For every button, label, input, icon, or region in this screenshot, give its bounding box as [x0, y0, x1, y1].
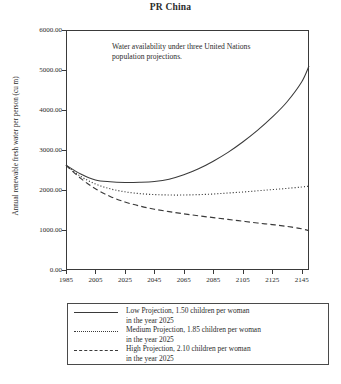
- legend-label: Low Projection, 1.50 children per womani…: [126, 306, 249, 326]
- series-line: [66, 165, 309, 195]
- chart-annotation: Water availability under three United Na…: [112, 42, 262, 63]
- legend-label: High Projection, 2.10 children per woman…: [126, 344, 251, 364]
- x-axis-tick-mark: [95, 270, 96, 274]
- legend-line-sample: [74, 331, 118, 333]
- legend-label: Medium Projection, 1.85 children per wom…: [126, 325, 261, 345]
- x-axis-tick-mark: [272, 270, 273, 274]
- y-axis-tick-label: 5000.00: [39, 66, 62, 74]
- chart-figure: PR China Annual renewable fresh water pe…: [0, 0, 341, 384]
- legend-item[interactable]: High Projection, 2.10 children per woman…: [68, 345, 328, 365]
- x-axis-tick-label: 2125: [265, 276, 279, 284]
- legend-line-sample: [74, 312, 118, 314]
- x-axis-tick-label: 2005: [88, 276, 102, 284]
- x-axis-tick-mark: [66, 270, 67, 274]
- y-axis-tick-label: 2000.00: [39, 186, 62, 194]
- x-axis-tick-mark: [125, 270, 126, 274]
- legend-label-line2: in the year 2025: [126, 354, 251, 364]
- legend-label-line1: Medium Projection, 1.85 children per wom…: [126, 325, 261, 335]
- x-axis-tick-label: 2045: [147, 276, 161, 284]
- legend-label-line1: Low Projection, 1.50 children per woman: [126, 306, 249, 316]
- x-axis-tick-mark: [213, 270, 214, 274]
- x-axis-tick-mark: [184, 270, 185, 274]
- x-axis-tick-mark: [302, 270, 303, 274]
- x-axis-tick-label: 1985: [59, 276, 73, 284]
- chart-series-lines: [66, 30, 309, 270]
- x-axis-tick-label: 2145: [295, 276, 309, 284]
- x-axis-tick-mark: [154, 270, 155, 274]
- y-axis-tick-labels: 0.001000.002000.003000.004000.005000.006…: [0, 30, 62, 270]
- y-axis-tick-label: 1000.00: [39, 226, 62, 234]
- y-axis-tick-label: 3000.00: [39, 146, 62, 154]
- x-axis-tick-label: 2065: [177, 276, 191, 284]
- y-axis-tick-label: 0.00: [50, 266, 62, 274]
- series-line: [66, 165, 309, 231]
- x-axis-tick-mark: [243, 270, 244, 274]
- legend-item[interactable]: Medium Projection, 1.85 children per wom…: [68, 326, 328, 346]
- chart-legend: Low Projection, 1.50 children per womani…: [67, 303, 329, 365]
- x-axis-tick-label: 2105: [236, 276, 250, 284]
- plot-area: [66, 30, 309, 270]
- chart-title: PR China: [0, 2, 341, 12]
- x-axis-tick-label: 2025: [118, 276, 132, 284]
- legend-item[interactable]: Low Projection, 1.50 children per womani…: [68, 307, 328, 327]
- y-axis-tick-label: 4000.00: [39, 106, 62, 114]
- x-axis-tick-labels: 198520052025204520652085210521252145: [66, 276, 309, 288]
- y-axis-tick-label: 6000.00: [39, 26, 62, 34]
- x-axis-tick-marks: [66, 270, 309, 275]
- series-line: [66, 66, 309, 182]
- x-axis-tick-label: 2085: [206, 276, 220, 284]
- legend-line-sample: [74, 350, 118, 352]
- legend-label-line1: High Projection, 2.10 children per woman: [126, 344, 251, 354]
